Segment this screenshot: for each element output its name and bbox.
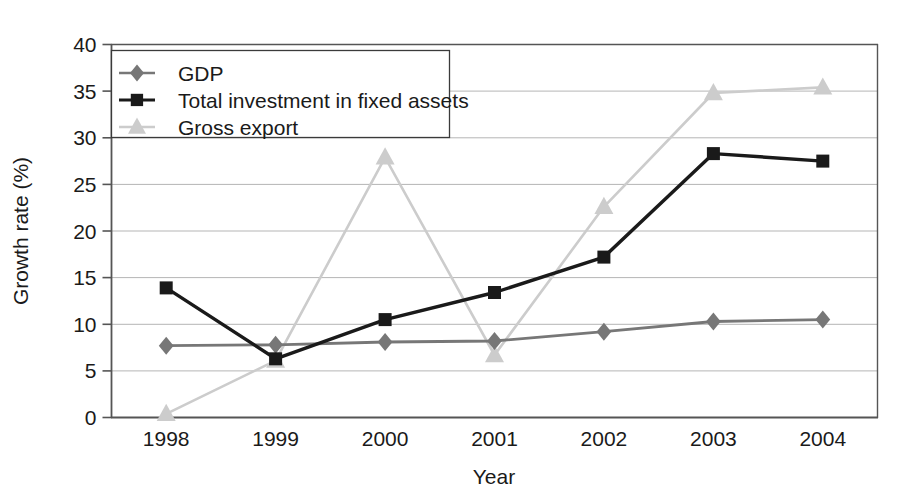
- y-axis-tick-label: 15: [73, 266, 96, 289]
- x-axis-tick-labels: 1998199920002001200220032004: [143, 427, 847, 450]
- data-point-marker: [707, 147, 720, 160]
- y-axis-tick-label: 0: [85, 406, 97, 429]
- x-axis-title: Year: [473, 465, 515, 488]
- y-axis-tick-label: 40: [73, 33, 96, 56]
- data-point-marker: [488, 286, 501, 299]
- x-axis-tick-label: 2003: [690, 427, 737, 450]
- y-axis-tick-label: 30: [73, 126, 96, 149]
- x-axis-tick-label: 2002: [581, 427, 628, 450]
- y-axis-title: Growth rate (%): [9, 157, 32, 305]
- x-axis-tick-label: 2001: [471, 427, 518, 450]
- line-chart: 0510152025303540 19981999200020012002200…: [0, 0, 918, 495]
- y-axis-tick-label: 35: [73, 80, 96, 103]
- legend-entry-label: GDP: [178, 62, 224, 85]
- y-axis-tick-label: 5: [85, 359, 97, 382]
- x-axis-tick-label: 1998: [143, 427, 190, 450]
- y-axis-tick-labels: 0510152025303540: [73, 33, 96, 429]
- y-axis-ticks: [103, 45, 112, 418]
- data-point-marker: [160, 281, 173, 294]
- legend-marker-icon: [131, 94, 143, 106]
- y-axis-tick-label: 10: [73, 313, 96, 336]
- data-point-marker: [597, 251, 610, 264]
- chart-figure: 0510152025303540 19981999200020012002200…: [0, 0, 918, 495]
- y-axis-tick-label: 25: [73, 173, 96, 196]
- x-axis-tick-label: 1999: [252, 427, 299, 450]
- y-axis-tick-label: 20: [73, 220, 96, 243]
- data-point-marker: [379, 313, 392, 326]
- legend-entry-label: Gross export: [178, 116, 298, 139]
- legend-entry-label: Total investment in fixed assets: [178, 89, 469, 112]
- x-axis-tick-label: 2000: [362, 427, 409, 450]
- data-point-marker: [816, 155, 829, 168]
- data-point-marker: [269, 352, 282, 365]
- chart-legend: GDPTotal investment in fixed assetsGross…: [112, 51, 469, 139]
- x-axis-tick-label: 2004: [799, 427, 846, 450]
